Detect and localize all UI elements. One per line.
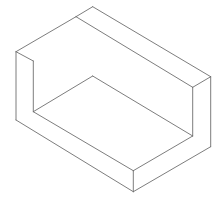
drawing-canvas bbox=[0, 0, 220, 200]
edge-left-top-back bbox=[16, 17, 76, 52]
l-block-isometric-drawing bbox=[0, 0, 220, 200]
edge-floor-right bbox=[133, 136, 192, 171]
edge-floor-left-back bbox=[33, 76, 92, 112]
edge-bottom-right bbox=[133, 147, 210, 192]
edge-bottom-left bbox=[16, 120, 133, 192]
edge-floor-back bbox=[93, 76, 193, 136]
edge-back-top-left bbox=[76, 7, 93, 17]
edge-right-top-front bbox=[193, 77, 211, 88]
edge-floor-front bbox=[33, 112, 133, 171]
edge-back-top-right bbox=[93, 7, 211, 77]
edge-left-top-front bbox=[16, 52, 33, 61]
